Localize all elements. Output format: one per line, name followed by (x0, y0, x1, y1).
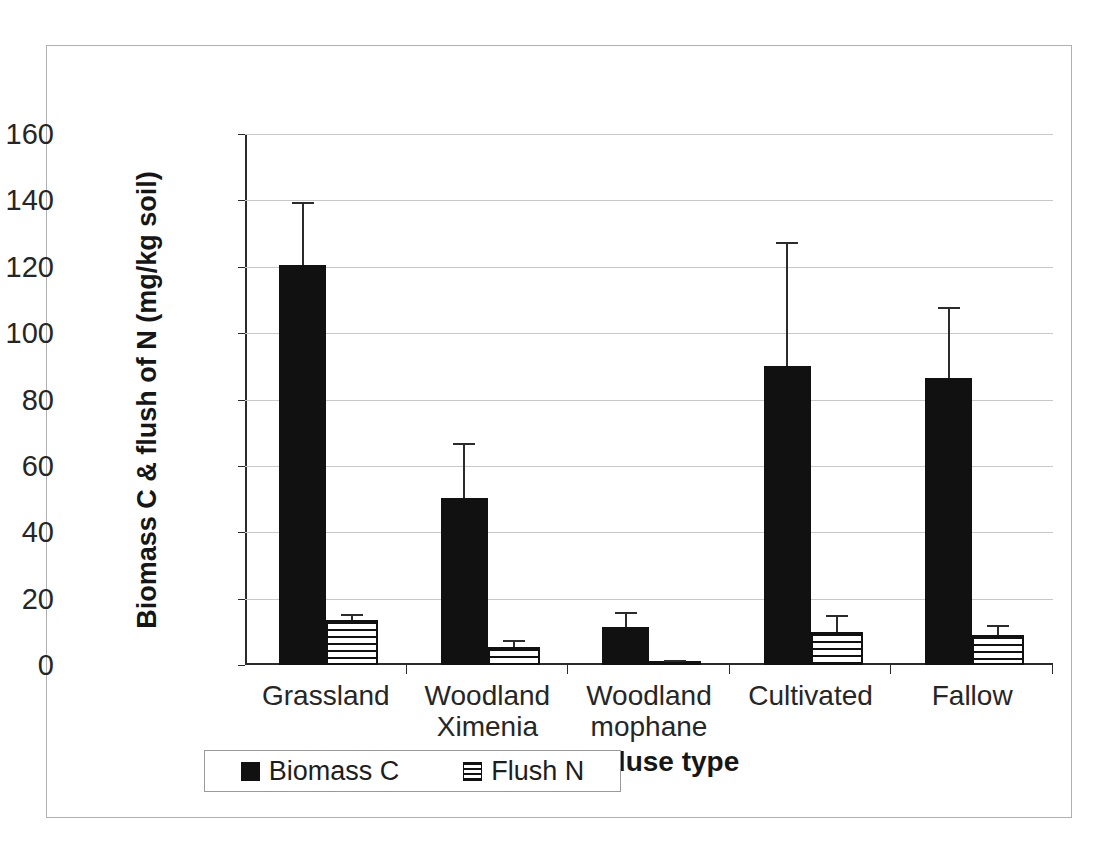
error-bar-biomass-c-cap (453, 443, 475, 445)
error-bar-flush-n-cap (987, 625, 1009, 627)
x-axis-category-label-line: Woodland (568, 680, 730, 711)
y-axis-title: Biomass C & flush of N (mg/kg soil) (132, 120, 163, 680)
y-axis-tick-mark (238, 267, 245, 268)
y-axis-tick-mark (238, 400, 245, 401)
bar-group (407, 134, 569, 665)
legend-label: Biomass C (269, 756, 400, 787)
bar-group (730, 134, 892, 665)
x-axis-category-label: Woodlandmophane (568, 680, 730, 743)
error-bar-biomass-c-stem (463, 443, 465, 499)
bar-biomass-c[interactable] (441, 498, 488, 665)
legend-swatch-biomass-c (241, 762, 260, 781)
y-axis-tick-mark (238, 200, 245, 201)
y-axis-title-container: Biomass C & flush of N (mg/kg soil) (115, 134, 155, 665)
bar-flush-n[interactable] (972, 635, 1024, 665)
y-axis-tick-label: 100 (0, 319, 54, 348)
x-axis-category-label: WoodlandXimenia (407, 680, 569, 743)
chart-frame: Biomass C & flush of N (mg/kg soil) Land… (46, 45, 1072, 818)
x-axis-tick-mark (1052, 665, 1053, 674)
y-axis-tick-mark (238, 333, 245, 334)
error-bar-flush-n-cap (341, 614, 363, 616)
y-axis-tick-label: 120 (0, 252, 54, 281)
error-bar-biomass-c-stem (786, 242, 788, 366)
error-bar-flush-n-cap (503, 640, 525, 642)
x-axis-category-label-line: Cultivated (730, 680, 892, 711)
x-axis-category-label-line: Woodland (407, 680, 569, 711)
bar-flush-n[interactable] (811, 632, 863, 665)
bar-biomass-c[interactable] (764, 366, 811, 665)
x-axis-category-label: Cultivated (730, 680, 892, 711)
y-axis-tick-label: 40 (0, 518, 54, 547)
y-axis-tick-mark (238, 665, 245, 666)
legend-entry[interactable]: Biomass C (241, 756, 400, 787)
bar-biomass-c[interactable] (602, 627, 649, 665)
x-axis-tick-mark (890, 665, 891, 674)
y-axis-tick-label: 140 (0, 186, 54, 215)
error-bar-biomass-c-cap (776, 242, 798, 244)
y-axis-tick-label: 160 (0, 120, 54, 149)
y-axis-tick-label: 0 (0, 651, 54, 680)
error-bar-biomass-c-cap (938, 307, 960, 309)
y-axis-tick-mark (238, 466, 245, 467)
x-axis-category-label-line: mophane (568, 711, 730, 742)
x-axis-category-label-line: Fallow (891, 680, 1053, 711)
bar-group (245, 134, 407, 665)
bar-group (568, 134, 730, 665)
error-bar-flush-n-stem (836, 615, 838, 632)
x-axis-tick-mark (406, 665, 407, 674)
x-axis-tick-mark (729, 665, 730, 674)
error-bar-biomass-c-stem (302, 202, 304, 265)
x-axis-category-label: Fallow (891, 680, 1053, 711)
bar-group (891, 134, 1053, 665)
error-bar-flush-n-cap (826, 615, 848, 617)
plot-area (245, 134, 1053, 665)
error-bar-flush-n-cap (664, 660, 686, 662)
bar-biomass-c[interactable] (279, 265, 326, 665)
x-axis-category-label-line: Grassland (245, 680, 407, 711)
error-bar-biomass-c-stem (625, 612, 627, 627)
y-axis-tick-label: 80 (0, 385, 54, 414)
error-bar-biomass-c-cap (292, 202, 314, 204)
legend-label: Flush N (491, 756, 584, 787)
y-axis-tick-mark (238, 134, 245, 135)
x-axis-category-label: Grassland (245, 680, 407, 711)
x-axis-category-label-line: Ximenia (407, 711, 569, 742)
x-axis-tick-mark (567, 665, 568, 674)
y-axis-tick-mark (238, 599, 245, 600)
bar-biomass-c[interactable] (925, 378, 972, 665)
bar-flush-n[interactable] (326, 620, 378, 665)
error-bar-biomass-c-cap (615, 612, 637, 614)
y-axis-tick-label: 60 (0, 451, 54, 480)
error-bar-biomass-c-stem (948, 307, 950, 378)
bar-flush-n[interactable] (488, 647, 540, 665)
y-axis-tick-label: 20 (0, 584, 54, 613)
legend-swatch-flush-n (463, 762, 482, 781)
chart-legend: Biomass CFlush N (204, 750, 621, 792)
y-axis-tick-mark (238, 532, 245, 533)
legend-entry[interactable]: Flush N (463, 756, 584, 787)
